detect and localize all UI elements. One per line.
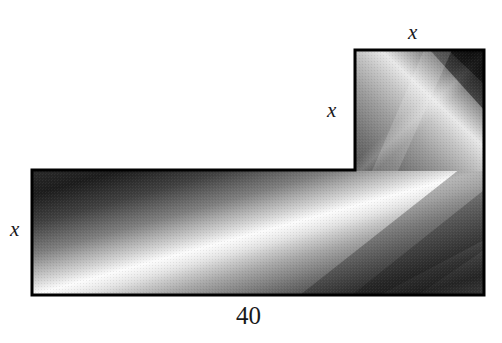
dimension-label-base-length: 40 <box>236 303 261 328</box>
dimension-label-x-left: x <box>10 219 19 240</box>
lower-rectangle-fill <box>32 150 484 295</box>
dimension-label-x-middle: x <box>327 100 336 121</box>
geometry-figure: x x x 40 <box>0 0 502 343</box>
l-shape-diagram <box>0 0 502 343</box>
upper-rectangle-fill <box>355 50 484 171</box>
dimension-label-x-top: x <box>408 22 417 43</box>
